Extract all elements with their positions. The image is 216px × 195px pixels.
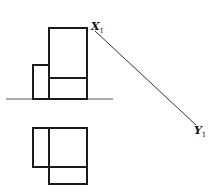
plan-lower-block <box>49 167 87 184</box>
plan-view <box>33 128 87 184</box>
auxiliary-line <box>95 31 196 125</box>
short-block <box>33 65 49 99</box>
tall-block <box>49 28 87 99</box>
plan-upper-block <box>33 128 87 167</box>
projection-diagram: X1 Y1 <box>0 0 216 195</box>
elevation-view <box>33 28 87 99</box>
label-x1: X1 <box>90 20 104 35</box>
label-y1: Y1 <box>194 124 206 139</box>
